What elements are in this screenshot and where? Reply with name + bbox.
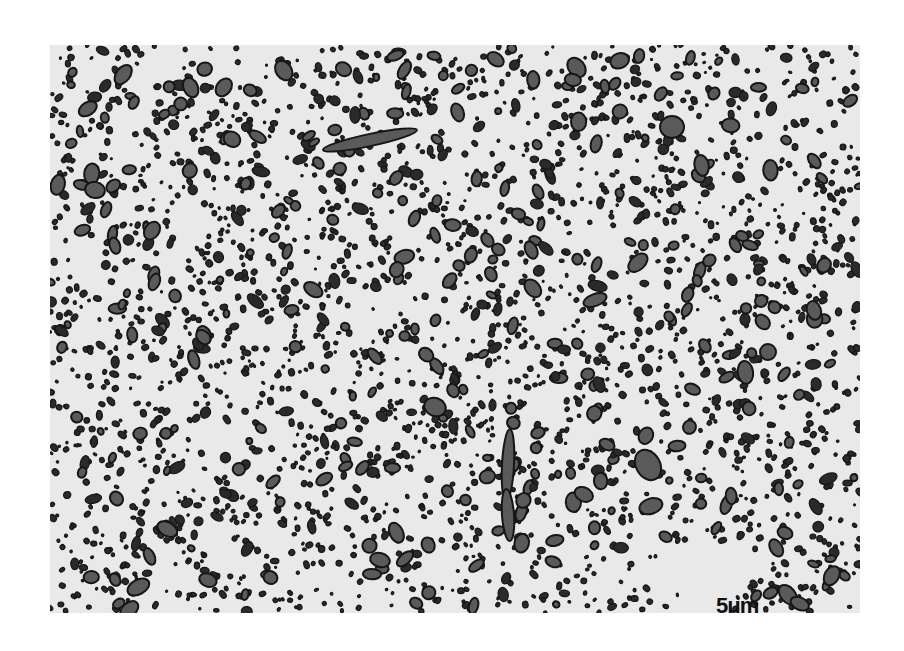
particle bbox=[828, 516, 832, 520]
particle bbox=[65, 441, 68, 444]
particle bbox=[276, 276, 282, 282]
particle bbox=[548, 287, 552, 291]
particle bbox=[506, 296, 514, 306]
particle bbox=[231, 240, 235, 245]
particle bbox=[621, 450, 630, 458]
particle bbox=[63, 311, 68, 317]
particle bbox=[194, 562, 199, 569]
particle bbox=[639, 240, 649, 251]
particle bbox=[538, 310, 544, 317]
particle bbox=[718, 537, 728, 545]
particle bbox=[153, 144, 160, 151]
particle bbox=[200, 138, 203, 141]
particle bbox=[261, 381, 265, 385]
particle bbox=[694, 63, 697, 66]
particle bbox=[90, 435, 98, 447]
particle bbox=[528, 532, 534, 538]
particle bbox=[57, 539, 60, 542]
particle bbox=[64, 534, 68, 538]
particle bbox=[107, 236, 122, 255]
particle bbox=[808, 463, 814, 470]
particle bbox=[141, 546, 158, 566]
particle bbox=[743, 388, 746, 392]
particle bbox=[50, 605, 54, 612]
particle bbox=[816, 402, 820, 406]
particle bbox=[261, 293, 268, 301]
particle bbox=[663, 280, 671, 290]
particle bbox=[665, 476, 674, 485]
particle bbox=[352, 483, 362, 493]
particle bbox=[785, 469, 790, 475]
particle bbox=[174, 97, 187, 110]
particle bbox=[292, 532, 297, 536]
particle bbox=[302, 548, 306, 552]
particle bbox=[708, 66, 712, 70]
particle bbox=[442, 431, 449, 439]
particle bbox=[108, 317, 113, 322]
particle bbox=[205, 401, 210, 406]
particle bbox=[714, 56, 724, 66]
particle bbox=[556, 215, 561, 220]
particle bbox=[56, 312, 62, 319]
particle bbox=[564, 406, 570, 412]
particle bbox=[139, 174, 143, 177]
particle bbox=[140, 409, 148, 418]
particle bbox=[212, 309, 214, 312]
particle bbox=[635, 130, 642, 139]
particle bbox=[610, 45, 614, 48]
particle bbox=[575, 318, 581, 324]
particle bbox=[204, 242, 212, 250]
particle bbox=[59, 111, 68, 118]
particle bbox=[215, 122, 220, 126]
particle bbox=[250, 268, 258, 276]
particle bbox=[789, 334, 794, 340]
particle bbox=[66, 258, 70, 262]
particle bbox=[501, 233, 513, 245]
particle bbox=[101, 585, 109, 593]
particle bbox=[80, 570, 84, 574]
particle bbox=[589, 134, 604, 154]
particle bbox=[799, 441, 804, 446]
particle bbox=[399, 312, 403, 316]
particle bbox=[161, 381, 164, 384]
particle bbox=[175, 590, 182, 597]
particle bbox=[146, 401, 152, 407]
particle bbox=[138, 319, 145, 324]
particle bbox=[279, 283, 292, 296]
particle bbox=[643, 209, 650, 218]
particle bbox=[690, 243, 695, 248]
particle bbox=[65, 123, 69, 127]
particle bbox=[685, 90, 690, 94]
particle bbox=[850, 69, 855, 75]
particle bbox=[787, 45, 794, 49]
particle bbox=[543, 610, 548, 613]
particle bbox=[321, 601, 327, 607]
particle bbox=[560, 69, 564, 73]
particle bbox=[841, 109, 846, 114]
particle bbox=[422, 437, 427, 444]
particle bbox=[304, 163, 308, 167]
particle bbox=[833, 452, 838, 457]
particle bbox=[683, 518, 688, 523]
particle bbox=[412, 422, 416, 426]
particle bbox=[504, 346, 508, 349]
particle bbox=[474, 215, 481, 221]
particle bbox=[467, 296, 471, 300]
particle bbox=[50, 113, 55, 118]
particle bbox=[240, 255, 244, 260]
particle bbox=[419, 192, 425, 198]
particle bbox=[167, 288, 182, 304]
particle bbox=[502, 260, 509, 266]
particle bbox=[370, 212, 374, 216]
particle bbox=[686, 476, 692, 482]
particle bbox=[241, 606, 253, 613]
particle bbox=[526, 121, 531, 126]
particle bbox=[708, 221, 714, 229]
particle bbox=[317, 256, 321, 260]
particle bbox=[154, 152, 162, 160]
particle bbox=[624, 237, 637, 248]
particle bbox=[564, 442, 567, 445]
particle bbox=[834, 404, 840, 410]
particle bbox=[725, 97, 737, 109]
particle bbox=[370, 506, 376, 512]
